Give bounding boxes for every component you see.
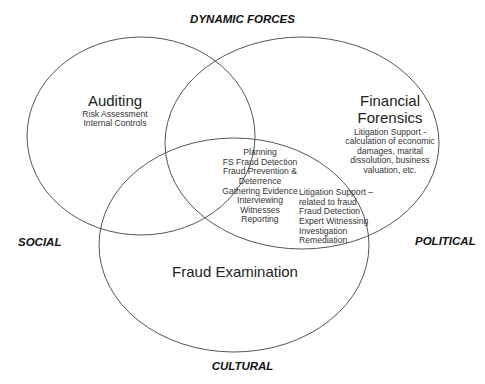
- financial-forensics-title-line1: Financial: [360, 93, 420, 110]
- auditing-title: Auditing: [88, 93, 142, 110]
- financial-forensics-title-line2: Forensics: [357, 110, 422, 127]
- center-item: Reporting: [241, 215, 278, 225]
- force-political: POLITICAL: [415, 235, 476, 248]
- force-cultural: CULTURAL: [0, 360, 485, 373]
- force-social: SOCIAL: [18, 236, 61, 249]
- financial-forensics-item: valuation, etc.: [363, 166, 416, 176]
- force-dynamic-forces: DYNAMIC FORCES: [0, 13, 485, 26]
- auditing-item: Internal Controls: [83, 119, 146, 129]
- forensics-fraud-item: Remediation: [299, 236, 347, 246]
- fraud-examination-title: Fraud Examination: [170, 264, 300, 281]
- financial-forensics-label-group: Financial Forensics Litigation Support -…: [320, 93, 460, 176]
- forensics-fraud-overlap-group: Litigation Support – related to fraud Fr…: [299, 188, 373, 246]
- auditing-label-group: Auditing Risk Assessment Internal Contro…: [50, 93, 180, 129]
